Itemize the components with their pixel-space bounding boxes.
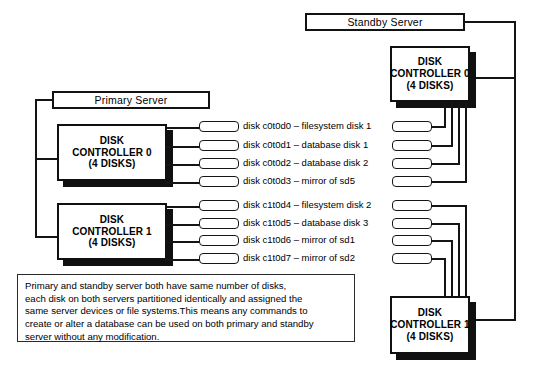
standby-c0-link-3-v xyxy=(465,102,467,183)
standby-controller-0-box: DISK CONTROLLER 0 (4 DISKS) xyxy=(390,46,470,102)
primary-c1-link-0 xyxy=(165,206,202,208)
standby-c0-link-2-h xyxy=(431,163,460,165)
note-line-1: each disk on both servers partitioned id… xyxy=(25,293,347,306)
standby-c0-link-3-h xyxy=(431,181,467,183)
primary-disk-3 xyxy=(199,176,239,187)
standby-c0-link-1-v xyxy=(451,102,453,147)
note-line-2: same server devices or file systems.This… xyxy=(25,305,347,318)
primary-controller-0: DISK CONTROLLER 0 (4 DISKS) xyxy=(57,124,167,181)
standby-c1-link-1-h xyxy=(431,223,460,225)
standby-controller-1-line2: CONTROLLER 1 xyxy=(390,319,470,331)
standby-disk-1 xyxy=(392,140,432,151)
disk-label-5: disk c1t0d5 – database disk 3 xyxy=(243,217,368,228)
standby-server-label: Standby Server xyxy=(347,16,422,28)
primary-controller-0-box: DISK CONTROLLER 0 (4 DISKS) xyxy=(57,124,167,181)
standby-controller-1-line3: (4 DISKS) xyxy=(407,331,454,343)
primary-c1-link-1 xyxy=(165,224,202,226)
disk-label-1: disk c0t0d1 – database disk 1 xyxy=(243,139,368,150)
standby-disk-5 xyxy=(392,218,432,229)
primary-controller-0-line3: (4 DISKS) xyxy=(89,158,136,170)
standby-c0-link-0-v xyxy=(444,102,446,128)
standby-c0-link-2-v xyxy=(458,102,460,165)
disk-label-2: disk c0t0d2 – database disk 2 xyxy=(243,157,368,168)
standby-controller-0-line1: DISK xyxy=(418,56,443,68)
standby-c1-link-0-v xyxy=(465,205,467,298)
primary-controller-1-line1: DISK xyxy=(100,214,125,226)
disk-label-3: disk c0t0d3 – mirror of sd5 xyxy=(243,175,355,186)
note-box: Primary and standby server both have sam… xyxy=(17,274,355,342)
primary-disk-4 xyxy=(199,200,239,211)
primary-controller-1-line2: CONTROLLER 1 xyxy=(72,226,152,238)
standby-c1-link-2-v xyxy=(451,240,453,298)
standby-c1-link-0-h xyxy=(431,205,467,207)
note-line-3: create or alter a database can be used o… xyxy=(25,318,347,331)
disk-label-0: disk c0t0d0 – filesystem disk 1 xyxy=(243,120,371,131)
standby-controller-0-line3: (4 DISKS) xyxy=(407,80,454,92)
disk-label-4: disk c1t0d4 – filesystem disk 2 xyxy=(243,199,371,210)
standby-disk-6 xyxy=(392,235,432,246)
standby-controller-0-line2: CONTROLLER 0 xyxy=(390,68,470,80)
primary-c1-link-2 xyxy=(165,241,202,243)
primary-c0-link-0 xyxy=(165,127,202,129)
primary-bus-top xyxy=(35,99,54,101)
note-line-4: server without any modification. xyxy=(25,331,347,344)
standby-c0-link-1-h xyxy=(431,145,453,147)
primary-controller-0-line1: DISK xyxy=(100,135,125,147)
primary-bus-branch-c0 xyxy=(35,158,59,160)
standby-disk-3 xyxy=(392,176,432,187)
standby-disk-2 xyxy=(392,158,432,169)
disk-label-6: disk c1t0d6 – mirror of sd1 xyxy=(243,234,355,245)
primary-controller-0-line2: CONTROLLER 0 xyxy=(72,147,152,159)
primary-server-label: Primary Server xyxy=(95,94,168,106)
standby-disk-4 xyxy=(392,200,432,211)
primary-controller-1-line3: (4 DISKS) xyxy=(89,237,136,249)
primary-disk-6 xyxy=(199,235,239,246)
standby-controller-1-line1: DISK xyxy=(418,307,443,319)
primary-controller-1-box: DISK CONTROLLER 1 (4 DISKS) xyxy=(57,203,167,260)
primary-c0-link-1 xyxy=(165,146,202,148)
standby-c1-link-2-h xyxy=(431,240,453,242)
standby-disk-7 xyxy=(392,253,432,264)
primary-controller-1: DISK CONTROLLER 1 (4 DISKS) xyxy=(57,203,167,260)
standby-bus-top xyxy=(463,21,516,23)
standby-bus-vertical xyxy=(514,21,516,321)
primary-server-box: Primary Server xyxy=(52,91,210,109)
primary-disk-2 xyxy=(199,158,239,169)
diagram-canvas: Standby Server DISK CONTROLLER 0 (4 DISK… xyxy=(0,0,534,367)
primary-disk-7 xyxy=(199,253,239,264)
primary-bus-branch-c1 xyxy=(35,236,59,238)
standby-server-box: Standby Server xyxy=(305,13,465,31)
primary-disk-0 xyxy=(199,121,239,132)
standby-disk-0 xyxy=(392,121,432,132)
standby-controller-0: DISK CONTROLLER 0 (4 DISKS) xyxy=(390,46,470,102)
primary-c1-link-3 xyxy=(165,259,202,261)
disk-label-7: disk c1t0d7 – mirror of sd2 xyxy=(243,252,355,263)
standby-controller-1: DISK CONTROLLER 1 (4 DISKS) xyxy=(390,296,470,354)
primary-disk-1 xyxy=(199,140,239,151)
primary-disk-5 xyxy=(199,218,239,229)
standby-controller-1-box: DISK CONTROLLER 1 (4 DISKS) xyxy=(390,296,470,354)
standby-c1-link-1-v xyxy=(458,223,460,298)
note-line-0: Primary and standby server both have sam… xyxy=(25,280,347,293)
primary-bus-vertical xyxy=(35,99,37,238)
primary-c0-link-3 xyxy=(165,182,202,184)
primary-c0-link-2 xyxy=(165,164,202,166)
standby-c1-link-3-v xyxy=(444,258,446,298)
